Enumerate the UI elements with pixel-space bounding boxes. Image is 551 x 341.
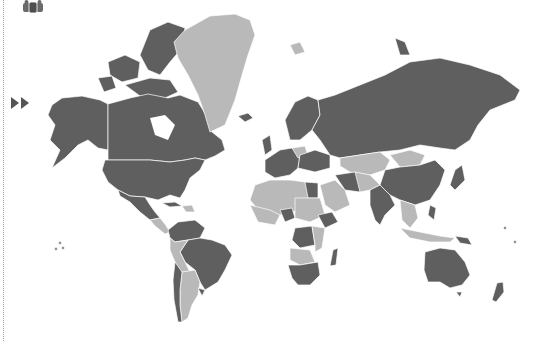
region-ethiopia[interactable] (318, 212, 338, 228)
region-papua-new-guinea[interactable] (455, 236, 472, 245)
region-japan[interactable] (450, 165, 465, 190)
region-dr-congo[interactable] (292, 226, 315, 248)
region-russia[interactable] (312, 58, 520, 158)
region-indonesia[interactable] (400, 228, 455, 242)
region-uruguay[interactable] (198, 288, 205, 296)
region-australia[interactable] (424, 248, 470, 288)
region-nigeria[interactable] (280, 208, 295, 222)
region-pacific-islands[interactable] (504, 227, 507, 230)
region-new-zealand[interactable] (492, 282, 504, 302)
region-alaska[interactable] (48, 96, 108, 168)
region-madagascar[interactable] (330, 248, 338, 266)
region-cuba[interactable] (162, 202, 182, 207)
region-caribbean[interactable] (182, 205, 195, 212)
region-central-america[interactable] (150, 218, 170, 234)
region-svalbard[interactable] (290, 42, 305, 55)
region-uk[interactable] (262, 135, 272, 155)
region-philippines[interactable] (428, 205, 436, 220)
region-east-africa[interactable] (312, 226, 325, 252)
region-angola-zambia[interactable] (290, 248, 315, 265)
region-iceland[interactable] (238, 113, 253, 122)
region-mongolia[interactable] (390, 150, 425, 167)
region-canada-arctic[interactable] (98, 22, 185, 98)
region-usa[interactable] (102, 158, 205, 200)
region-novaya-zemlya[interactable] (395, 38, 410, 55)
world-map (0, 0, 551, 341)
region-southern-africa[interactable] (288, 262, 320, 285)
region-argentina[interactable] (180, 270, 200, 322)
region-tasmania[interactable] (456, 292, 462, 297)
